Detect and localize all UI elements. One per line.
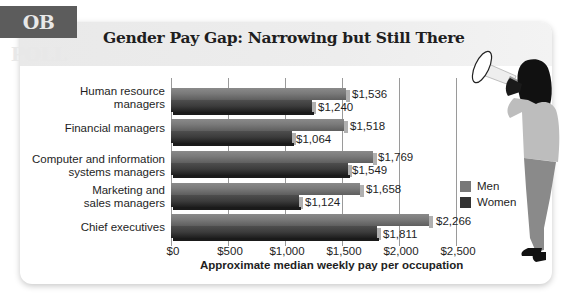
woman-megaphone-illustration [470,38,570,270]
x-tick: $500 [217,245,243,257]
bar-women [171,131,292,143]
category-label: Marketing andsales managers [84,184,165,210]
value-label-men: $1,769 [378,151,413,163]
x-tick: $1,500 [326,245,361,257]
bar-men [171,151,373,163]
bar-women [171,100,312,112]
value-label-women: $1,124 [305,196,340,208]
value-label-men: $1,536 [352,88,387,100]
value-label-men: $1,518 [350,120,385,132]
category-label: Computer and informationsystems managers [32,153,165,179]
bar-men [171,183,360,195]
value-label-men: $2,266 [436,215,471,227]
bar-women [171,226,377,238]
bar-women [171,195,299,207]
bar-men [171,119,344,131]
x-axis-label: Approximate median weekly pay per occupa… [200,259,463,271]
value-label-men: $1,658 [366,183,401,195]
category-label: Human resourcemanagers [80,85,165,111]
value-label-women: $1,240 [318,101,353,113]
x-tick: $1,000 [269,245,304,257]
value-label-women: $1,549 [352,164,387,176]
category-label: Financial managers [65,122,165,135]
value-label-women: $1,811 [383,228,417,240]
x-tick: $2,000 [383,245,418,257]
x-tick: $0 [167,245,180,257]
bar-women [171,163,348,175]
bar-chart: Human resourcemanagers $1,536 $1,240 Fin… [0,0,573,294]
category-label: Chief executives [81,221,165,234]
value-label-women: $1,064 [296,133,331,145]
bar-men [171,214,429,226]
bar-men [171,88,346,100]
